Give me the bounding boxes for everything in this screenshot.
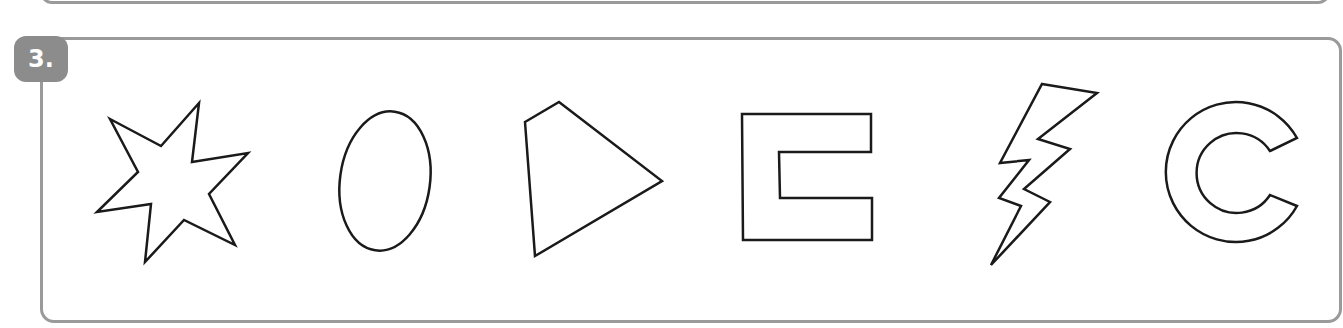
star-shape — [97, 103, 248, 262]
ellipse-shape — [331, 105, 440, 256]
u-bracket-shape — [742, 114, 872, 240]
lightning-bolt-shape — [991, 84, 1097, 265]
quadrilateral-shape — [525, 102, 662, 256]
c-shape — [1166, 102, 1297, 242]
shapes-row — [0, 0, 1343, 328]
